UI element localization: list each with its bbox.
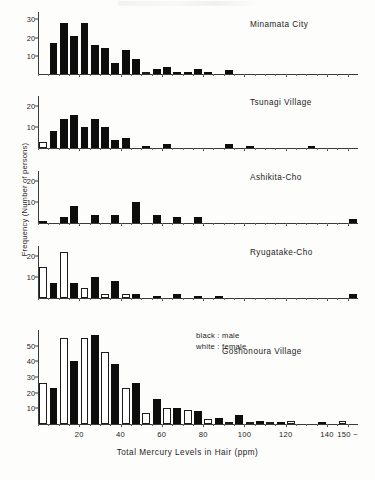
x-minor-tick bbox=[152, 148, 153, 150]
x-minor-tick bbox=[317, 424, 318, 426]
y-tick-mark bbox=[35, 277, 38, 278]
x-minor-tick bbox=[79, 298, 80, 300]
bar-male bbox=[101, 127, 109, 148]
x-minor-tick bbox=[234, 424, 235, 426]
bar-male bbox=[70, 206, 78, 223]
x-minor-tick bbox=[286, 298, 287, 300]
bar-male bbox=[70, 361, 78, 424]
bar-female bbox=[60, 252, 68, 298]
x-minor-tick bbox=[348, 148, 349, 150]
bar-male bbox=[91, 45, 99, 74]
x-minor-tick bbox=[224, 148, 225, 150]
x-minor-tick bbox=[131, 223, 132, 225]
y-tick-mark bbox=[35, 361, 38, 362]
bar-male bbox=[81, 127, 89, 148]
bar-female bbox=[142, 72, 150, 74]
y-tick-mark bbox=[35, 127, 38, 128]
x-minor-tick bbox=[306, 298, 307, 300]
x-minor-tick bbox=[172, 74, 173, 76]
x-minor-tick bbox=[121, 223, 122, 225]
x-minor-tick bbox=[141, 74, 142, 76]
x-minor-tick bbox=[275, 298, 276, 300]
x-minor-tick bbox=[286, 74, 287, 76]
x-minor-tick bbox=[162, 298, 163, 300]
x-minor-tick bbox=[327, 424, 328, 426]
x-minor-tick bbox=[327, 223, 328, 225]
bar-male bbox=[91, 277, 99, 298]
x-minor-tick bbox=[110, 148, 111, 150]
bar-male bbox=[81, 23, 89, 74]
bar-male bbox=[173, 72, 181, 74]
x-minor-tick bbox=[213, 223, 214, 225]
bar-male bbox=[235, 415, 243, 424]
bar-male bbox=[349, 294, 357, 298]
bar-male bbox=[173, 294, 181, 298]
bar-female bbox=[287, 421, 295, 424]
y-tick-mark bbox=[35, 377, 38, 378]
x-minor-tick bbox=[255, 148, 256, 150]
bar-female bbox=[225, 422, 233, 424]
x-minor-tick bbox=[152, 74, 153, 76]
x-axis-line bbox=[38, 424, 358, 425]
x-minor-tick bbox=[296, 298, 297, 300]
x-minor-tick bbox=[317, 298, 318, 300]
x-minor-tick bbox=[203, 424, 204, 426]
y-axis-line bbox=[38, 12, 39, 74]
bar-male bbox=[153, 69, 161, 74]
x-minor-tick bbox=[296, 148, 297, 150]
x-tick-label: 120 bbox=[279, 430, 293, 439]
x-minor-tick bbox=[244, 223, 245, 225]
mercury-histogram-figure: Frequency (Number of persons) 102030Mina… bbox=[0, 0, 375, 480]
x-minor-tick bbox=[172, 424, 173, 426]
x-minor-tick bbox=[213, 298, 214, 300]
legend-female: white : female bbox=[196, 342, 246, 353]
x-minor-tick bbox=[234, 223, 235, 225]
x-minor-tick bbox=[79, 223, 80, 225]
x-minor-tick bbox=[110, 424, 111, 426]
x-minor-tick bbox=[203, 298, 204, 300]
y-tick-mark bbox=[35, 345, 38, 346]
x-minor-tick bbox=[255, 424, 256, 426]
x-minor-tick bbox=[69, 148, 70, 150]
x-minor-tick bbox=[59, 223, 60, 225]
x-minor-tick bbox=[255, 223, 256, 225]
x-minor-tick bbox=[38, 74, 39, 76]
x-tick-label: 60 bbox=[157, 430, 166, 439]
x-minor-tick bbox=[317, 74, 318, 76]
x-minor-tick bbox=[121, 148, 122, 150]
x-minor-tick bbox=[172, 298, 173, 300]
x-tick-label: 20 bbox=[75, 430, 84, 439]
x-minor-tick bbox=[193, 298, 194, 300]
bar-male bbox=[246, 146, 254, 148]
bar-male bbox=[318, 422, 326, 424]
x-minor-tick bbox=[172, 223, 173, 225]
x-minor-tick bbox=[286, 223, 287, 225]
x-minor-tick bbox=[59, 74, 60, 76]
x-minor-tick bbox=[131, 74, 132, 76]
x-minor-tick bbox=[69, 74, 70, 76]
x-minor-tick bbox=[48, 298, 49, 300]
bar-male bbox=[91, 215, 99, 223]
x-minor-tick bbox=[48, 74, 49, 76]
x-minor-tick bbox=[234, 148, 235, 150]
bar-male bbox=[184, 72, 192, 74]
y-axis-line bbox=[38, 171, 39, 223]
x-minor-tick bbox=[110, 223, 111, 225]
bar-male bbox=[70, 283, 78, 298]
x-minor-tick bbox=[100, 424, 101, 426]
bar-female bbox=[60, 338, 68, 424]
x-minor-tick bbox=[131, 424, 132, 426]
bar-female bbox=[266, 422, 274, 424]
x-minor-tick bbox=[152, 424, 153, 426]
x-axis-line bbox=[38, 148, 358, 149]
bar-male bbox=[91, 119, 99, 148]
x-minor-tick bbox=[38, 223, 39, 225]
x-minor-tick bbox=[90, 223, 91, 225]
x-minor-tick bbox=[183, 223, 184, 225]
x-minor-tick bbox=[79, 424, 80, 426]
x-minor-tick bbox=[152, 298, 153, 300]
x-minor-tick bbox=[90, 424, 91, 426]
x-minor-tick bbox=[296, 74, 297, 76]
x-minor-tick bbox=[275, 148, 276, 150]
bar-male bbox=[173, 408, 181, 424]
